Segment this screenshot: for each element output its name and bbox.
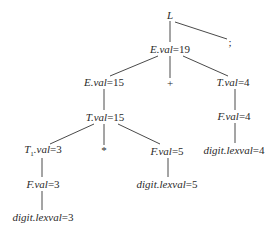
node-F-val-4: F.val=4 xyxy=(217,111,250,122)
node-plus: + xyxy=(167,78,173,89)
parse-tree-diagram: L ; E.val=19 E.val=15 + T.val=4 T.val=15… xyxy=(0,0,278,235)
node-attr: .val xyxy=(91,111,107,123)
node-attr: .lexval xyxy=(33,211,62,223)
node-symbol: + xyxy=(167,77,173,89)
node-value: =5 xyxy=(172,145,184,157)
node-attr: .val xyxy=(91,76,107,88)
node-value: =3 xyxy=(50,143,62,155)
node-E-val-19: E.val=19 xyxy=(150,44,190,55)
node-T-val-4: T.val=4 xyxy=(216,77,249,88)
node-value: =3 xyxy=(48,178,60,190)
edge-e19-e15 xyxy=(110,56,158,76)
node-symbol: E xyxy=(150,43,157,55)
node-symbol: * xyxy=(101,144,107,156)
node-attr: .val xyxy=(156,145,172,157)
node-symbol: digit xyxy=(137,178,157,190)
node-attr: .val xyxy=(222,76,238,88)
node-value: =19 xyxy=(173,43,190,55)
node-symbol: ; xyxy=(228,36,231,48)
edge-e19-t4 xyxy=(183,56,228,76)
node-attr: .val xyxy=(34,143,50,155)
node-E-val-15: E.val=15 xyxy=(84,77,124,88)
edge-root-semicolon xyxy=(175,22,227,39)
node-value: =15 xyxy=(107,76,124,88)
edge-t15-t1 xyxy=(50,124,94,144)
node-value: =5 xyxy=(186,178,198,190)
node-F-val-5: F.val=5 xyxy=(150,146,183,157)
node-digit-lexval-3: digit.lexval=3 xyxy=(13,212,74,223)
node-digit-lexval-5: digit.lexval=5 xyxy=(137,179,198,190)
node-value: =4 xyxy=(238,76,250,88)
node-T-val-15: T.val=15 xyxy=(86,112,125,123)
edge-t15-f5 xyxy=(118,124,160,144)
node-value: =15 xyxy=(107,111,124,123)
node-L: L xyxy=(167,10,173,21)
node-symbol: E xyxy=(84,76,91,88)
node-attr: .val xyxy=(32,178,48,190)
node-value: =4 xyxy=(239,110,251,122)
node-digit-lexval-4: digit.lexval=4 xyxy=(204,145,265,156)
node-attr: .val xyxy=(223,110,239,122)
node-symbol: digit xyxy=(204,144,224,156)
node-star: * xyxy=(101,145,107,156)
node-value: =4 xyxy=(253,144,265,156)
node-T1-val-3: T1.val=3 xyxy=(24,144,62,158)
node-F-val-3: F.val=3 xyxy=(26,179,59,190)
node-attr: .lexval xyxy=(157,178,186,190)
node-attr: .lexval xyxy=(224,144,253,156)
node-value: =3 xyxy=(62,211,74,223)
node-semicolon: ; xyxy=(228,37,231,48)
node-symbol: digit xyxy=(13,211,33,223)
node-symbol: L xyxy=(167,9,173,21)
node-attr: .val xyxy=(157,43,173,55)
